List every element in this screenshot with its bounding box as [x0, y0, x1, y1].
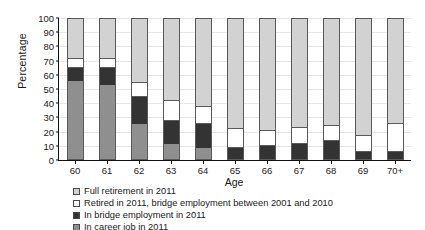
- bar-segment[interactable]: [100, 68, 115, 85]
- bar-segment[interactable]: [228, 148, 243, 159]
- legend-label: Retired in 2011, bridge employment betwe…: [84, 198, 333, 209]
- bar-slot[interactable]: 70+: [379, 18, 411, 160]
- x-tick-label: 65: [230, 165, 241, 176]
- y-tick-label: 60: [43, 69, 59, 80]
- bar-segment[interactable]: [68, 68, 83, 81]
- legend-swatch-icon: [73, 224, 80, 230]
- x-tick-mark: [171, 160, 172, 164]
- bar-segment[interactable]: [356, 135, 371, 152]
- x-tick-mark: [235, 160, 236, 164]
- x-tick-mark: [299, 160, 300, 164]
- bar-segment[interactable]: [100, 19, 115, 58]
- stacked-bar[interactable]: [99, 18, 116, 160]
- legend-item[interactable]: In career job in 2011: [73, 222, 333, 230]
- bar-segment[interactable]: [388, 123, 403, 152]
- bar-segment[interactable]: [68, 19, 83, 58]
- legend: Full retirement in 2011Retired in 2011, …: [73, 186, 333, 230]
- legend-item[interactable]: Retired in 2011, bridge employment betwe…: [73, 198, 333, 209]
- bar-segment[interactable]: [164, 144, 179, 159]
- x-tick-label: 66: [262, 165, 273, 176]
- x-tick-mark: [203, 160, 204, 164]
- bar-slot[interactable]: 61: [91, 18, 123, 160]
- y-tick-label: 0: [49, 155, 59, 166]
- bar-segment[interactable]: [228, 128, 243, 148]
- x-tick-mark: [331, 160, 332, 164]
- legend-swatch-icon: [73, 212, 80, 219]
- y-tick-label: 40: [43, 98, 59, 109]
- legend-item[interactable]: Full retirement in 2011: [73, 186, 333, 197]
- x-tick-label: 63: [166, 165, 177, 176]
- x-tick-label: 70+: [387, 165, 403, 176]
- bar-segment[interactable]: [260, 130, 275, 147]
- plot-area: 0102030405060708090100 60616263646566676…: [58, 18, 411, 161]
- bar-segment[interactable]: [68, 58, 83, 68]
- x-tick-mark: [107, 160, 108, 164]
- bar-segment[interactable]: [132, 124, 147, 159]
- bar-group: 6061626364656667686970+: [59, 18, 411, 160]
- y-tick-label: 100: [38, 13, 59, 24]
- x-tick-label: 60: [70, 165, 81, 176]
- bar-segment[interactable]: [228, 19, 243, 128]
- bar-segment[interactable]: [324, 19, 339, 125]
- bar-slot[interactable]: 66: [251, 18, 283, 160]
- stacked-bar[interactable]: [163, 18, 180, 160]
- bar-segment[interactable]: [324, 141, 339, 159]
- bar-segment[interactable]: [260, 19, 275, 130]
- y-tick-label: 70: [43, 55, 59, 66]
- bar-segment[interactable]: [196, 19, 211, 106]
- x-tick-label: 68: [326, 165, 337, 176]
- bar-segment[interactable]: [196, 148, 211, 159]
- stacked-bar[interactable]: [355, 18, 372, 160]
- bar-segment[interactable]: [324, 125, 339, 140]
- bar-segment[interactable]: [196, 124, 211, 148]
- bar-slot[interactable]: 68: [315, 18, 347, 160]
- bar-segment[interactable]: [292, 127, 307, 144]
- bar-segment[interactable]: [68, 81, 83, 159]
- stacked-bar[interactable]: [259, 18, 276, 160]
- x-tick-mark: [75, 160, 76, 164]
- bar-segment[interactable]: [100, 85, 115, 159]
- bar-slot[interactable]: 64: [187, 18, 219, 160]
- bar-slot[interactable]: 62: [123, 18, 155, 160]
- bar-segment[interactable]: [132, 97, 147, 124]
- x-tick-mark: [363, 160, 364, 164]
- bar-slot[interactable]: 65: [219, 18, 251, 160]
- bar-segment[interactable]: [356, 19, 371, 135]
- bar-segment[interactable]: [292, 19, 307, 127]
- bar-segment[interactable]: [164, 100, 179, 121]
- stacked-bar[interactable]: [131, 18, 148, 160]
- stacked-bar[interactable]: [195, 18, 212, 160]
- legend-swatch-icon: [73, 188, 80, 195]
- y-tick-label: 30: [43, 112, 59, 123]
- stacked-bar[interactable]: [291, 18, 308, 160]
- bar-segment[interactable]: [388, 19, 403, 123]
- bar-segment[interactable]: [260, 146, 275, 159]
- bar-segment[interactable]: [100, 58, 115, 68]
- stacked-bar[interactable]: [387, 18, 404, 160]
- stacked-bar[interactable]: [323, 18, 340, 160]
- bar-segment[interactable]: [132, 19, 147, 82]
- bar-segment[interactable]: [132, 82, 147, 97]
- bar-segment[interactable]: [164, 121, 179, 143]
- bar-slot[interactable]: 60: [59, 18, 91, 160]
- bar-segment[interactable]: [164, 19, 179, 100]
- stacked-bar[interactable]: [227, 18, 244, 160]
- legend-label: Full retirement in 2011: [84, 186, 176, 197]
- bar-segment[interactable]: [388, 152, 403, 159]
- legend-item[interactable]: In bridge employment in 2011: [73, 210, 333, 221]
- bar-slot[interactable]: 63: [155, 18, 187, 160]
- stacked-bar[interactable]: [67, 18, 84, 160]
- bar-segment[interactable]: [356, 152, 371, 159]
- x-tick-label: 64: [198, 165, 209, 176]
- x-tick-mark: [267, 160, 268, 164]
- bar-segment[interactable]: [196, 106, 211, 124]
- bar-slot[interactable]: 67: [283, 18, 315, 160]
- bar-slot[interactable]: 69: [347, 18, 379, 160]
- stacked-bar-chart: Percentage 0102030405060708090100 606162…: [0, 0, 425, 230]
- x-tick-mark: [139, 160, 140, 164]
- y-tick-label: 80: [43, 41, 59, 52]
- bar-segment[interactable]: [292, 144, 307, 159]
- y-tick-label: 50: [43, 84, 59, 95]
- legend-label: In career job in 2011: [84, 222, 168, 230]
- x-tick-label: 67: [294, 165, 305, 176]
